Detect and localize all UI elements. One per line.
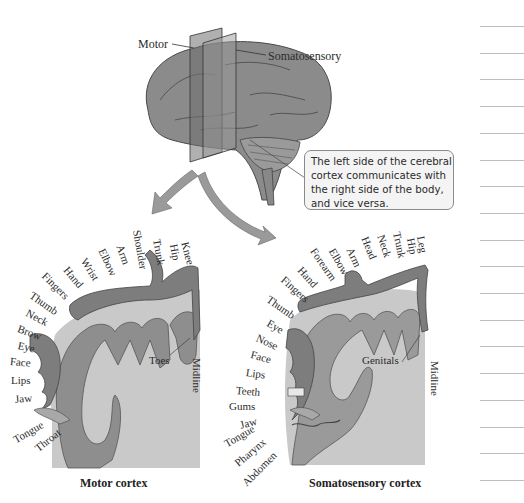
somato-label-midline: Midline: [429, 361, 441, 396]
note-line: [480, 213, 524, 214]
motor-plane-label: Motor: [138, 37, 168, 52]
note-line: [480, 453, 524, 454]
motor-cortex-caption: Motor cortex: [80, 476, 147, 491]
note-line: [480, 427, 524, 428]
motor-label-midline: Midline: [191, 358, 203, 393]
note-line: [480, 373, 524, 374]
motor-label-hip: Hip: [168, 243, 183, 261]
note-line: [480, 320, 524, 321]
note-line: [480, 293, 524, 294]
somatosensory-plane: [203, 33, 236, 158]
motor-label-face: Face: [9, 355, 31, 369]
note-line: [480, 26, 524, 27]
somatosensory-cortex-caption: Somatosensory cortex: [309, 476, 421, 491]
motor-label-lips: Lips: [11, 374, 31, 386]
callout-box: The left side of the cerebral cortex com…: [304, 150, 454, 210]
note-line: [480, 53, 524, 54]
note-line: [480, 106, 524, 107]
note-line: [480, 266, 524, 267]
note-line: [480, 480, 524, 481]
diagram-graphics: [0, 0, 524, 503]
arrow-to-motor: [152, 170, 198, 214]
note-line: [480, 160, 524, 161]
somato-label-gums: Gums: [229, 400, 255, 412]
note-line: [480, 240, 524, 241]
somato-label-genitals: Genitals: [362, 354, 399, 366]
note-line: [480, 133, 524, 134]
note-line: [480, 186, 524, 187]
somatosensory-plane-label: Somatosensory: [268, 49, 341, 64]
somato-label-lips: Lips: [245, 366, 266, 381]
motor-label-toes: Toes: [149, 354, 170, 366]
motor-label-jaw: Jaw: [14, 392, 32, 405]
note-line: [480, 79, 524, 80]
somato-label-teeth: Teeth: [235, 384, 260, 398]
note-line: [480, 346, 524, 347]
note-line: [480, 400, 524, 401]
